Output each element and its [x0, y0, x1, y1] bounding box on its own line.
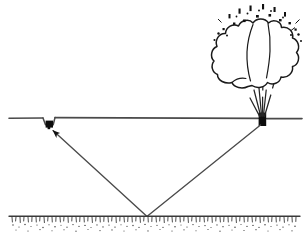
figure-canvas [0, 0, 307, 239]
reflector-hatch-marks [12, 217, 296, 223]
upgoing-reflected-ray [53, 131, 147, 216]
receiver-marker-square [46, 121, 53, 128]
receiver-marker-stem [48, 127, 51, 129]
subsurface-reflector-group [9, 216, 300, 232]
downgoing-ray [148, 125, 261, 216]
ground-surface-line-main [55, 118, 258, 119]
geophone-receiver[interactable] [46, 121, 53, 130]
reflector-stipple-dots [12, 224, 295, 232]
seismic-reflection-figure: Seismic reflection ray path from surface… [0, 0, 307, 239]
ray-path-group [53, 125, 261, 216]
